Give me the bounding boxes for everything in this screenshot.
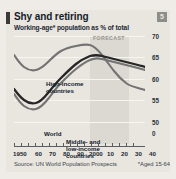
series-label-high-income: High-income countries High-incomecountri… xyxy=(46,81,83,95)
x-tick-mark xyxy=(35,143,36,146)
x-tick-1970: 70 xyxy=(49,150,56,157)
x-tick-mark xyxy=(98,143,99,146)
x-tick-mark xyxy=(28,143,29,146)
x-tick-1980: 80 xyxy=(63,150,70,157)
page-title: Shy and retiring xyxy=(14,11,89,22)
x-axis-line xyxy=(14,146,145,147)
chart-footer: Source: UN World Population Prospects *A… xyxy=(14,161,170,171)
forecast-label: FORECAST xyxy=(93,35,125,41)
footnote-text: *Aged 15-64 xyxy=(138,161,170,167)
x-axis-labels: 1950 60 70 80 90 2000 10 20 30 40 xyxy=(14,150,150,160)
x-tick-2020: 20 xyxy=(121,150,128,157)
x-tick-mark xyxy=(133,143,134,146)
x-tick-1990: 90 xyxy=(77,150,84,157)
x-tick-mark xyxy=(91,143,92,146)
y-tick-0: 0 xyxy=(152,130,156,137)
chart-card: Shy and retiring 5 Working-age* populati… xyxy=(6,10,170,172)
x-tick-2000: 2000 xyxy=(89,150,103,157)
x-tick-mark xyxy=(63,143,64,146)
x-tick-mark xyxy=(21,143,22,146)
x-tick-mark xyxy=(14,143,15,146)
series-label-world: World xyxy=(44,131,61,138)
x-tick-1960: 60 xyxy=(35,150,42,157)
y-tick-55: 55 xyxy=(152,97,159,104)
x-tick-1950: 1950 xyxy=(13,150,27,157)
x-tick-2010: 10 xyxy=(107,150,114,157)
x-tick-mark xyxy=(126,143,127,146)
title-accent-bar xyxy=(6,12,10,24)
x-tick-mark xyxy=(112,143,113,146)
x-tick-2040: 40 xyxy=(149,150,156,157)
source-text: Source: UN World Population Prospects xyxy=(14,161,117,167)
x-tick-mark xyxy=(49,143,50,146)
y-tick-65: 65 xyxy=(152,54,159,61)
x-tick-mark xyxy=(70,143,71,146)
status-badge: 5 xyxy=(157,12,167,22)
y-tick-70: 70 xyxy=(152,33,159,40)
chart-subtitle: Working-age* population as % of total xyxy=(14,24,129,31)
x-tick-mark xyxy=(77,143,78,146)
y-axis: 70 65 60 55 50 0 xyxy=(147,36,170,154)
x-tick-mark xyxy=(56,143,57,146)
x-tick-mark xyxy=(84,143,85,146)
x-tick-2030: 30 xyxy=(135,150,142,157)
x-tick-mark xyxy=(42,143,43,146)
y-tick-50: 50 xyxy=(152,119,159,126)
x-tick-mark xyxy=(105,143,106,146)
x-tick-mark xyxy=(119,143,120,146)
y-tick-60: 60 xyxy=(152,76,159,83)
chart-plot-area: FORECAST High-income countries High-inco… xyxy=(14,36,145,144)
